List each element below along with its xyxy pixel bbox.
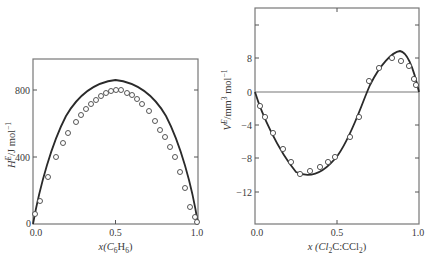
data-point xyxy=(317,164,322,169)
data-point xyxy=(262,114,267,119)
data-point xyxy=(332,154,337,159)
right-y-axis-label: VE/mm3 mol−1 xyxy=(220,69,233,130)
data-point xyxy=(406,63,411,68)
data-point xyxy=(325,159,330,164)
data-point xyxy=(297,171,302,176)
data-point xyxy=(114,88,119,93)
left-x-axis-label: x(C6H6) xyxy=(98,241,133,255)
left-xtick-label-1: 1.0 xyxy=(191,227,204,238)
data-point xyxy=(61,141,66,146)
left-xtick-label-0: 0.0 xyxy=(30,227,43,238)
data-point xyxy=(99,94,104,99)
data-point xyxy=(94,98,99,103)
data-point xyxy=(280,146,285,151)
right-plot-frame xyxy=(255,8,419,224)
data-point xyxy=(307,168,312,173)
data-point xyxy=(168,145,173,150)
data-point xyxy=(74,120,79,125)
left-chart: 800 400 0 0.0 0.5 1.0 xyxy=(4,59,203,255)
data-point xyxy=(163,135,168,140)
data-point xyxy=(84,107,89,112)
left-ytick-label-800: 800 xyxy=(15,85,30,96)
data-point xyxy=(33,212,38,217)
right-data-points xyxy=(257,55,418,176)
left-data-points xyxy=(33,88,200,225)
left-xtick-label-05: 0.5 xyxy=(109,227,122,238)
right-ytick-label-m8: −8 xyxy=(241,153,252,164)
data-point xyxy=(188,205,193,210)
data-point xyxy=(89,102,94,107)
data-point xyxy=(153,119,158,124)
left-y-axis-label: HE/J mol−1 xyxy=(4,122,17,169)
data-point xyxy=(356,114,361,119)
data-point xyxy=(270,130,275,135)
right-xtick-label-1: 1.0 xyxy=(412,227,425,238)
data-point xyxy=(125,91,130,96)
data-point xyxy=(413,82,418,87)
data-point xyxy=(257,103,262,108)
data-point xyxy=(366,78,371,83)
data-point xyxy=(347,134,352,139)
data-point xyxy=(130,93,135,98)
data-point xyxy=(193,215,198,220)
data-point xyxy=(140,102,145,107)
right-ytick-label-0: 0 xyxy=(247,87,252,98)
data-point xyxy=(178,170,183,175)
data-point xyxy=(135,97,140,102)
left-fit-curve xyxy=(33,80,198,224)
data-point xyxy=(104,91,109,96)
data-point xyxy=(389,55,394,60)
data-point xyxy=(173,155,178,160)
data-point xyxy=(158,128,163,133)
data-point xyxy=(38,199,43,204)
data-point xyxy=(376,65,381,70)
right-xtick-label-0: 0.0 xyxy=(251,227,264,238)
data-point xyxy=(46,175,51,180)
data-point xyxy=(79,113,84,118)
data-point xyxy=(398,58,403,63)
data-point xyxy=(147,109,152,114)
data-point xyxy=(411,76,416,81)
data-point xyxy=(119,88,124,93)
left-plot-frame xyxy=(33,59,198,224)
left-ytick-label-400: 400 xyxy=(15,152,30,163)
data-point xyxy=(54,155,59,160)
right-ytick-label-m12: −12 xyxy=(236,187,252,198)
right-ytick-label-m4: −4 xyxy=(241,120,252,131)
data-point xyxy=(288,159,293,164)
data-point xyxy=(109,89,114,94)
data-point xyxy=(195,220,200,225)
data-point xyxy=(183,186,188,191)
right-xtick-label-05: 0.5 xyxy=(331,227,344,238)
figure: 800 400 0 0.0 0.5 1.0 xyxy=(0,0,429,258)
right-x-axis-label: x (Cl2C:CCl2) xyxy=(307,241,367,255)
right-chart: 8 0 −4 −8 −12 0.0 0.5 1.0 xyxy=(220,8,424,255)
data-point xyxy=(66,131,71,136)
right-ytick-label-8: 8 xyxy=(247,53,252,64)
